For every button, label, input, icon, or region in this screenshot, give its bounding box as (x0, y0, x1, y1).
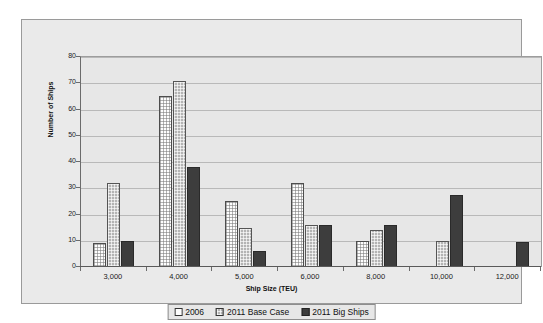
bar-8000-series2 (384, 225, 397, 267)
y-axis-tick-mark (76, 214, 80, 215)
y-axis-tick-label: 30 (58, 183, 76, 191)
legend-item-2011-base-case[interactable]: 2011 Base Case (216, 307, 289, 317)
bar-8000-series0 (356, 241, 369, 267)
y-axis-tick-mark (76, 240, 80, 241)
x-axis-tick-label: 4,000 (154, 272, 204, 281)
legend-label: 2011 Base Case (227, 307, 289, 317)
bar-8000-series1 (370, 230, 383, 267)
y-axis-tick-labels: 01020304050607080 (56, 20, 76, 303)
legend-label: 2006 (185, 307, 204, 317)
y-axis-tick-mark (76, 161, 80, 162)
bar-6000-series1 (305, 225, 318, 267)
legend-label: 2011 Big Ships (312, 307, 369, 317)
x-axis-tick-label: 12,000 (482, 272, 532, 281)
gridline (81, 188, 541, 189)
gridline (81, 136, 541, 137)
y-axis-tick-label: 20 (58, 210, 76, 218)
gridline (81, 162, 541, 163)
bar-5000-series0 (225, 201, 238, 267)
x-axis-line (80, 266, 541, 267)
x-axis-tick-mark (540, 267, 541, 271)
y-axis-tick-label: 10 (58, 236, 76, 244)
y-axis-tick-label: 70 (58, 78, 76, 86)
bar-5000-series2 (253, 251, 266, 267)
gridline (81, 57, 541, 58)
y-axis-title: Number of Ships (47, 70, 54, 150)
x-axis-title: Ship Size (TEU) (22, 285, 521, 292)
y-axis-tick-label: 80 (58, 52, 76, 60)
gridline (81, 110, 541, 111)
y-axis-tick-mark (76, 56, 80, 57)
bar-3000-series0 (93, 243, 106, 267)
x-axis-tick-label: 6,000 (285, 272, 335, 281)
x-axis-tick-mark (146, 267, 147, 271)
bar-6000-series2 (319, 225, 332, 267)
y-axis-tick-label: 60 (58, 105, 76, 113)
legend-item-2011-big-ships[interactable]: 2011 Big Ships (301, 307, 369, 317)
x-axis-tick-label: 3,000 (88, 272, 138, 281)
bar-5000-series1 (239, 228, 252, 267)
gridline (81, 83, 541, 84)
y-axis-tick-mark (76, 135, 80, 136)
chart-root: Number of Ships 01020304050607080 Ship S… (0, 0, 543, 323)
x-axis-tick-mark (343, 267, 344, 271)
y-axis-tick-label: 40 (58, 157, 76, 165)
y-axis-tick-mark (76, 109, 80, 110)
x-axis-tick-label: 10,000 (416, 272, 466, 281)
bar-4000-series0 (159, 96, 172, 267)
bar-3000-series1 (107, 183, 120, 267)
bar-4000-series2 (187, 167, 200, 267)
bars-layer (81, 57, 541, 267)
x-axis-tick-label: 8,000 (351, 272, 401, 281)
legend-swatch-icon (174, 308, 182, 316)
chart-legend: 20062011 Base Case2011 Big Ships (167, 304, 376, 320)
y-axis-tick-label: 0 (58, 262, 76, 270)
x-axis-tick-mark (211, 267, 212, 271)
x-axis-tick-mark (80, 267, 81, 271)
bar-3000-series2 (121, 241, 134, 267)
y-axis-tick-label: 50 (58, 131, 76, 139)
chart-frame: Number of Ships 01020304050607080 Ship S… (21, 19, 522, 304)
bar-4000-series1 (173, 81, 186, 267)
x-axis-tick-label: 5,000 (219, 272, 269, 281)
bar-10000-series2 (450, 195, 463, 267)
legend-swatch-icon (216, 308, 224, 316)
x-axis-tick-mark (277, 267, 278, 271)
x-axis-tick-mark (474, 267, 475, 271)
plot-area (80, 56, 542, 267)
bar-6000-series0 (291, 183, 304, 267)
legend-item-2006[interactable]: 2006 (174, 307, 204, 317)
gridline (81, 215, 541, 216)
x-axis-tick-mark (409, 267, 410, 271)
y-axis-tick-mark (76, 82, 80, 83)
bar-12000-series2 (516, 242, 529, 267)
bar-10000-series1 (436, 241, 449, 267)
legend-swatch-icon (301, 308, 309, 316)
y-axis-tick-mark (76, 187, 80, 188)
